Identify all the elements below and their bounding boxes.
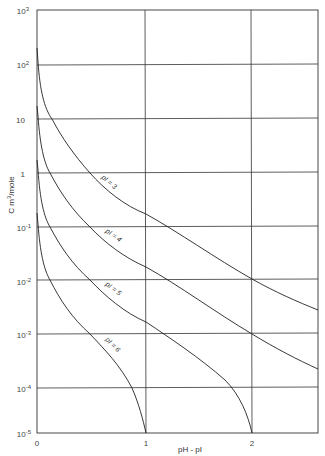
y-tick-1: 1 [21,170,26,179]
y-tick-1e-2: 10-2 [17,277,32,287]
plot-frame [37,10,318,433]
y-tick-10: 10 [16,116,25,125]
y-tick-1e-1: 10-1 [17,223,32,233]
x-tick-0: 0 [35,439,40,448]
y-tick-1e3: 103 [17,6,30,16]
label-pi-5: pI = 5 [103,280,123,298]
y-axis-title: C m3/mole [6,176,16,214]
y-tick-1e-4: 10-4 [17,384,32,394]
y-tick-1e-3: 10-3 [17,330,32,340]
curve-pi-6 [37,213,146,433]
x-tick-2: 2 [250,439,255,448]
vertical-gridlines [145,10,252,433]
y-tick-1e2: 102 [17,60,30,70]
curve-pi-3 [37,48,318,310]
label-pi-4: pI = 4 [103,227,123,244]
x-axis-title: pH - pI [178,445,202,454]
chart: pI = 3 pI = 4 pI = 5 pI = 6 103 102 10 1… [0,0,325,456]
horizontal-gridlines [37,64,318,388]
curves [37,48,318,433]
x-tick-1: 1 [144,439,149,448]
label-pi-3: pI = 3 [99,173,119,191]
y-tick-labels: 103 102 10 1 10-1 10-2 10-3 10-4 10-5 [16,6,32,439]
curve-pi-4 [37,106,318,369]
curve-pi-5 [37,160,252,433]
x-tick-labels: 0 1 2 [35,439,255,448]
y-tick-1e-5: 10-5 [17,429,32,439]
